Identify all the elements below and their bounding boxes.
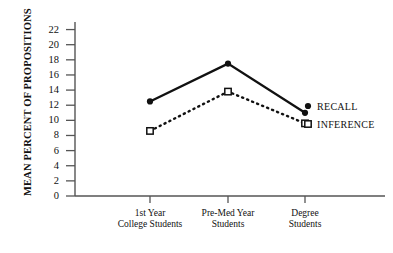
y-tick-label: 16 bbox=[37, 70, 59, 81]
data-point-inference bbox=[147, 128, 153, 134]
x-axis-ticks bbox=[150, 196, 305, 203]
legend-label-inference: INFERENCE bbox=[317, 119, 375, 130]
y-tick-label: 12 bbox=[37, 100, 59, 111]
x-tick-label: Degree Students bbox=[250, 208, 360, 230]
y-tick-label: 8 bbox=[37, 130, 59, 141]
series-markers bbox=[147, 61, 308, 135]
data-point-inference bbox=[225, 88, 231, 94]
data-point-recall bbox=[225, 61, 231, 67]
y-tick-label: 6 bbox=[37, 146, 59, 157]
y-tick-label: 0 bbox=[37, 191, 59, 202]
y-tick-label: 4 bbox=[37, 161, 59, 172]
legend-marker-recall bbox=[305, 103, 311, 109]
y-tick-label: 18 bbox=[37, 55, 59, 66]
data-point-recall bbox=[147, 98, 153, 104]
y-tick-label: 22 bbox=[37, 25, 59, 36]
legend-marker-inference bbox=[305, 121, 311, 127]
y-axis-ticks bbox=[66, 30, 75, 196]
chart-figure: MEAN PERCENT OF PROPOSITIONS 02468101214… bbox=[0, 0, 393, 253]
data-point-recall bbox=[302, 110, 308, 116]
series-lines bbox=[150, 64, 305, 131]
legend-label-recall: RECALL bbox=[317, 101, 358, 112]
y-tick-label: 10 bbox=[37, 115, 59, 126]
y-tick-label: 14 bbox=[37, 85, 59, 96]
y-tick-label: 2 bbox=[37, 176, 59, 187]
y-tick-label: 20 bbox=[37, 40, 59, 51]
